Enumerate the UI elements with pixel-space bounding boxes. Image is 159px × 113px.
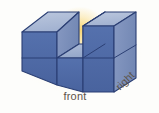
middle-bottom-front-face [57,58,83,92]
front-label: front [50,90,100,103]
right-column-front-face [83,26,114,92]
isometric-block-figure: front right [0,0,159,113]
